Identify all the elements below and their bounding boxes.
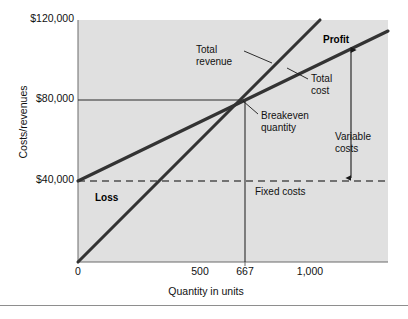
annotation-profit: Profit [323, 34, 349, 45]
x-tick-label-1000: 1,000 [292, 266, 328, 278]
annotation-loss: Loss [95, 192, 118, 203]
annotation-total-cost-line1: Total [311, 73, 332, 84]
x-tick-label-667: 667 [230, 266, 260, 278]
annotation-breakeven-quantity-line1: Breakeven [261, 110, 309, 121]
footer-divider [0, 305, 408, 306]
y-tick-label-40000: $40,000 [4, 174, 74, 186]
annotation-total-cost-line2: cost [311, 85, 329, 96]
annotation-variable-costs-line1: Variable [335, 131, 371, 142]
breakeven-chart-figure: $120,000 $80,000 $40,000 Costs/revenues … [0, 0, 408, 319]
annotation-total-revenue-line2: revenue [196, 56, 232, 67]
y-tick-label-80000: $80,000 [4, 93, 74, 105]
annotation-total-revenue-line1: Total [196, 44, 217, 55]
x-axis-title: Quantity in units [146, 286, 266, 298]
y-tick-label-120000: $120,000 [4, 13, 74, 25]
annotation-fixed-costs: Fixed costs [255, 186, 306, 197]
x-tick-label-500: 500 [185, 266, 215, 278]
annotation-variable-costs-line2: costs [335, 143, 358, 154]
y-axis-title: Costs/revenues [17, 77, 29, 167]
annotation-breakeven-quantity-line2: quantity [261, 122, 296, 133]
x-tick-label-0: 0 [68, 266, 88, 278]
